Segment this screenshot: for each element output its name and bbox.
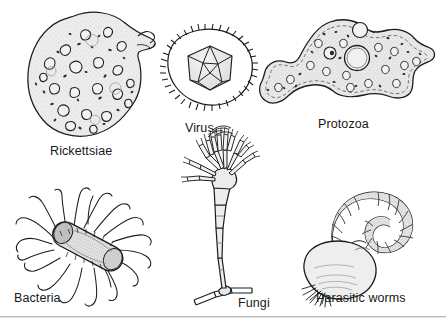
bacteria-bacillus-icon	[16, 188, 151, 306]
label-parasitic-worms: Parasitic worms	[316, 292, 406, 305]
protozoa-nucleus	[345, 46, 370, 71]
label-bacteria: Bacteria	[14, 292, 61, 305]
rickettsiae-cell-icon	[28, 12, 155, 136]
label-protozoa: Protozoa	[318, 118, 369, 131]
label-fungi: Fungi	[238, 297, 270, 310]
protozoa-amoeba-icon	[260, 20, 435, 103]
label-virus: Virus	[185, 122, 214, 135]
figure-artwork	[0, 0, 446, 328]
pathogen-figure: Rickettsiae Virus Protozoa Bacteria Fung…	[0, 0, 446, 328]
protozoa-vacuole-upper	[353, 23, 368, 38]
parasitic-worm-icon	[302, 192, 413, 307]
bottom-rule-shadow	[0, 317, 446, 318]
label-rickettsiae: Rickettsiae	[50, 145, 112, 158]
fungi-conidiophore-icon	[181, 126, 260, 305]
virus-icosahedron-icon	[160, 24, 258, 111]
